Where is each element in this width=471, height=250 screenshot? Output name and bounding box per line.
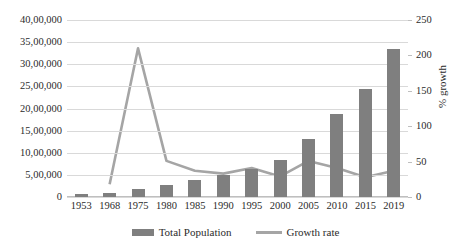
- gridline: [67, 175, 408, 176]
- y-axis-right-tickmark: [408, 91, 412, 92]
- y-axis-left-tick: 0: [57, 192, 62, 203]
- y-axis-left-tick: 35,00,000: [20, 37, 62, 48]
- y-axis-right-tick: 100: [416, 121, 432, 132]
- y-axis-left-tick: 20,00,000: [20, 103, 62, 114]
- y-axis-right-tick: 200: [416, 50, 432, 61]
- legend-label: Total Population: [159, 226, 232, 238]
- bar-total-population: [75, 194, 88, 197]
- bar-total-population: [359, 89, 372, 197]
- line-swatch-icon: [256, 231, 282, 234]
- y-axis-left-tick: 40,00,000: [20, 15, 62, 26]
- population-growth-chart: 05,00,00010,00,00015,00,00020,00,00025,0…: [0, 0, 471, 250]
- bar-total-population: [188, 180, 201, 197]
- bar-total-population: [245, 169, 258, 197]
- y-axis-right-tickmark: [408, 162, 412, 163]
- bar-total-population: [274, 160, 287, 197]
- x-axis-tick-label: 1985: [184, 200, 205, 212]
- x-axis-tick-label: 1968: [99, 200, 120, 212]
- gridline: [67, 109, 408, 110]
- x-axis-tick-label: 2019: [383, 200, 404, 212]
- gridline: [67, 197, 408, 198]
- legend-item-growth-rate: Growth rate: [256, 226, 340, 238]
- axis-baseline: [67, 196, 408, 197]
- y-axis-left: 05,00,00010,00,00015,00,00020,00,00025,0…: [0, 0, 62, 250]
- y-axis-right-tick: 150: [416, 86, 432, 97]
- x-axis-tick-label: 1980: [156, 200, 177, 212]
- x-axis-tick-label: 1953: [71, 200, 92, 212]
- gridline: [67, 131, 408, 132]
- gridline: [67, 86, 408, 87]
- y-axis-right-tickmark: [408, 126, 412, 127]
- y-axis-right-title: % growth: [436, 65, 448, 108]
- legend-item-total-population: Total Population: [132, 226, 232, 238]
- y-axis-right-tickmark: [408, 20, 412, 21]
- y-axis-left-tick: 25,00,000: [20, 81, 62, 92]
- gridline: [67, 153, 408, 154]
- x-axis-tick-label: 2000: [270, 200, 291, 212]
- y-axis-right-tick: 50: [416, 156, 427, 167]
- bar-swatch-icon: [132, 229, 154, 236]
- y-axis-right-tick: 0: [416, 192, 421, 203]
- y-axis-left-tick: 5,00,000: [25, 170, 62, 181]
- bar-total-population: [132, 189, 145, 197]
- y-axis-right: 050100150200250: [408, 0, 448, 250]
- y-axis-left-tick: 10,00,000: [20, 148, 62, 159]
- gridline: [67, 42, 408, 43]
- legend-label: Growth rate: [287, 226, 340, 238]
- gridline: [67, 20, 408, 21]
- bar-total-population: [330, 114, 343, 197]
- y-axis-right-tickmark: [408, 55, 412, 56]
- x-axis-tick-label: 1990: [213, 200, 234, 212]
- x-axis-tick-label: 1995: [241, 200, 262, 212]
- y-axis-left-tick: 15,00,000: [20, 125, 62, 136]
- y-axis-right-tick: 250: [416, 15, 432, 26]
- bar-total-population: [217, 175, 230, 197]
- gridline: [67, 64, 408, 65]
- plot-area: [67, 20, 408, 197]
- x-axis-tick-label: 2015: [355, 200, 376, 212]
- y-axis-left-tick: 30,00,000: [20, 59, 62, 70]
- chart-legend: Total Population Growth rate: [0, 226, 471, 238]
- bar-total-population: [103, 193, 116, 197]
- x-axis-tick-label: 2005: [298, 200, 319, 212]
- x-axis-tick-label: 1975: [128, 200, 149, 212]
- bar-total-population: [160, 185, 173, 197]
- bar-total-population: [302, 139, 315, 197]
- growth-rate-polyline: [110, 48, 394, 184]
- bar-total-population: [387, 49, 400, 197]
- x-axis-labels: 1953196819751980198519901995200020052010…: [67, 200, 408, 218]
- x-axis-tick-label: 2010: [326, 200, 347, 212]
- y-axis-right-tickmark: [408, 197, 412, 198]
